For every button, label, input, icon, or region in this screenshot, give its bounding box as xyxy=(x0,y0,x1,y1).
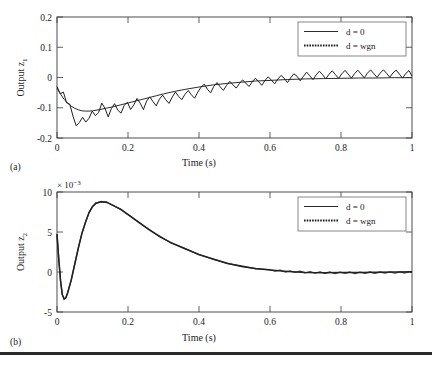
panel-a-ytick-3: -0.1 xyxy=(37,103,52,113)
panel-a-legend: d = 0 d = wgn xyxy=(298,22,406,56)
panel-b-plot: × 10−3 10 5 0 -5 xyxy=(0,175,432,360)
panel-b-ytick-2: 0 xyxy=(47,268,52,278)
panel-b-xtick-1: 0.2 xyxy=(122,317,134,327)
panel-b-ytick-0: 10 xyxy=(43,188,53,198)
panel-b-exponent-label: × 10−3 xyxy=(57,179,81,191)
bottom-horizontal-rule xyxy=(0,352,432,355)
panel-a-ytick-4: -0.2 xyxy=(37,134,52,144)
panel-b-xtick-3: 0.6 xyxy=(264,317,276,327)
panel-b-exponent-sup: −3 xyxy=(73,179,81,187)
panel-b-legend: d = 0 d = wgn xyxy=(298,197,406,231)
panel-a-xtick-1: 0.2 xyxy=(122,143,134,153)
panel-a-ytick-2: 0 xyxy=(47,73,52,83)
panel-a-xtick-2: 0.4 xyxy=(193,143,205,153)
panel-b-ylabel: Output z2 xyxy=(15,232,29,271)
panel-a-ylabel-main: Output z xyxy=(15,61,26,96)
panel-b-ylabel-sub: 2 xyxy=(21,232,29,236)
panel-a-xtick-5: 1 xyxy=(410,143,415,153)
panel-a-legend-label-dwgn: d = wgn xyxy=(346,41,376,51)
panel-b-xlabel: Time (s) xyxy=(182,332,216,344)
panel-b-exponent-base: × 10 xyxy=(57,180,74,190)
panel-b-xtick-5: 1 xyxy=(410,317,415,327)
panel-a-xlabel: Time (s) xyxy=(182,157,216,169)
panel-b-tag: (b) xyxy=(10,337,21,348)
panel-b-ytick-3: -5 xyxy=(44,308,52,318)
panel-a-ylabel-sub: 1 xyxy=(21,58,29,62)
panel-b-legend-label-dwgn: d = wgn xyxy=(346,216,376,226)
panel-a-plot: 0.2 0.1 0 -0.1 -0.2 0 0.2 0. xyxy=(0,0,432,180)
panel-a: 0.2 0.1 0 -0.1 -0.2 0 0.2 0. xyxy=(0,0,432,180)
panel-b-legend-label-d0: d = 0 xyxy=(346,202,365,212)
panel-b-xtick-0: 0 xyxy=(55,317,60,327)
panel-a-series-d0 xyxy=(57,78,412,111)
panel-a-tag: (a) xyxy=(10,162,21,173)
panel-b-xtick-4: 0.8 xyxy=(335,317,347,327)
panel-b-ylabel-main: Output z xyxy=(15,236,26,271)
panel-a-legend-label-d0: d = 0 xyxy=(346,27,365,37)
panel-b-ytick-1: 5 xyxy=(47,228,52,238)
figure-container: 0.2 0.1 0 -0.1 -0.2 0 0.2 0. xyxy=(0,0,432,370)
panel-a-xtick-4: 0.8 xyxy=(335,143,347,153)
panel-a-ytick-0: 0.2 xyxy=(40,13,52,23)
panel-a-xtick-3: 0.6 xyxy=(264,143,276,153)
panel-b: × 10−3 10 5 0 -5 xyxy=(0,175,432,355)
svg-text:Output z1: Output z1 xyxy=(15,58,29,97)
panel-a-xtick-0: 0 xyxy=(55,143,60,153)
panel-b-xtick-2: 0.4 xyxy=(193,317,205,327)
panel-a-ylabel: Output z1 xyxy=(15,58,29,97)
svg-text:Output z2: Output z2 xyxy=(15,232,29,271)
panel-a-ytick-1: 0.1 xyxy=(40,43,52,53)
